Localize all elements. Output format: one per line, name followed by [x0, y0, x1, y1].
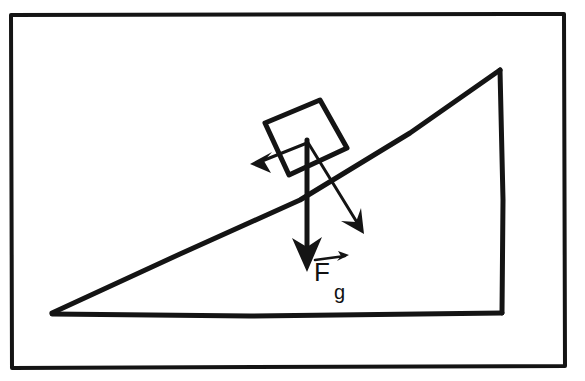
- parallel-component-arrowhead: [250, 152, 272, 173]
- incline-base: [52, 313, 502, 316]
- incline-vertical-side: [500, 70, 503, 313]
- normal-component-arrowhead: [341, 208, 364, 234]
- inclined-plane-diagram: F g: [0, 0, 585, 381]
- gravity-force-label: F g: [314, 251, 349, 303]
- gravity-force-label-subscript: g: [334, 281, 345, 303]
- figure-canvas: F g: [0, 0, 585, 381]
- incline-hypotenuse: [52, 70, 500, 313]
- vector-overhead-arrow-icon: [315, 251, 349, 261]
- gravity-force-label-main: F: [314, 257, 330, 287]
- parallel-component-shaft: [262, 143, 307, 161]
- incline-triangle: [52, 70, 503, 316]
